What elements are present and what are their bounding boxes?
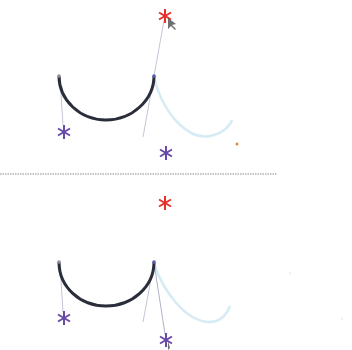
red-asterisk-handle-icon[interactable]	[159, 196, 171, 210]
curve[interactable]	[59, 262, 154, 306]
bottom-panel	[57, 196, 343, 350]
purple-asterisk-control-icon[interactable]	[160, 146, 172, 160]
anchor-point[interactable]	[57, 74, 61, 78]
handle-line	[154, 263, 165, 334]
curve-editing-diagram	[0, 0, 352, 350]
stray-dot	[341, 318, 343, 320]
mouse-cursor-icon	[168, 18, 176, 30]
anchor-point[interactable]	[152, 74, 156, 78]
stray-dot	[289, 272, 291, 274]
purple-asterisk-control-icon[interactable]	[160, 333, 172, 347]
anchor-point[interactable]	[152, 260, 156, 264]
curve[interactable]	[59, 76, 154, 120]
ghost-curve	[154, 78, 232, 136]
top-panel	[57, 9, 238, 160]
purple-asterisk-control-icon[interactable]	[58, 125, 70, 139]
ghost-curve	[154, 264, 230, 322]
anchor-point[interactable]	[57, 260, 61, 264]
stray-dot	[236, 143, 239, 146]
purple-asterisk-control-icon[interactable]	[58, 311, 70, 325]
